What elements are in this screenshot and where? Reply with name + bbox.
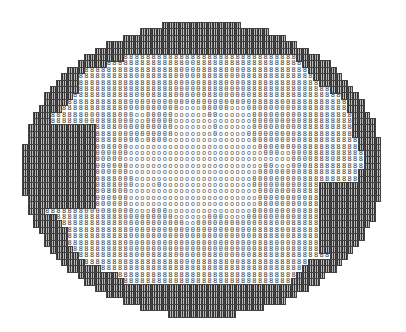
map-cell-dense [313,278,320,286]
map-cell-dense [291,291,298,299]
map-cell-dense [358,233,365,241]
map-cell-dense [375,195,382,203]
map-cell-dense [257,304,264,312]
map-cell-dense [280,297,287,305]
map-cell-dense [347,246,354,254]
map-cell-dense [330,265,337,273]
map-cell-dense [319,272,326,280]
map-cell-dense [229,310,236,318]
map-cell-dense [302,284,309,292]
ascii-contour-map: 8888888888888888888888888888888888888888… [0,0,406,332]
